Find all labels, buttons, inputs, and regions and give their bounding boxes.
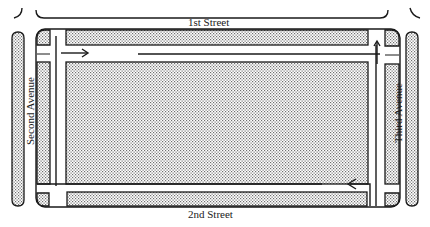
- corner-bottom-right: [385, 193, 399, 206]
- arrow-right-icon: [61, 49, 88, 57]
- street-diagram: 1st Street 2nd Street Second Avenue Thir…: [0, 0, 430, 227]
- third-avenue-sidewalk: [406, 32, 418, 206]
- bottom-sidewalk: [67, 192, 367, 206]
- label-first-street: 1st Street: [188, 16, 229, 28]
- left-sidewalk-strip: [37, 62, 50, 184]
- second-avenue-sidewalk: [12, 32, 24, 206]
- top-sidewalk: [66, 30, 368, 45]
- corner-bottom-left: [37, 193, 49, 206]
- label-third-avenue: Third Avenue: [392, 83, 404, 143]
- arrow-up-icon: [374, 41, 380, 64]
- corner-top-left: [37, 30, 50, 45]
- corner-top-right: [385, 30, 399, 46]
- central-lot: [66, 62, 368, 184]
- label-second-avenue: Second Avenue: [24, 77, 36, 145]
- label-second-street: 2nd Street: [188, 208, 233, 220]
